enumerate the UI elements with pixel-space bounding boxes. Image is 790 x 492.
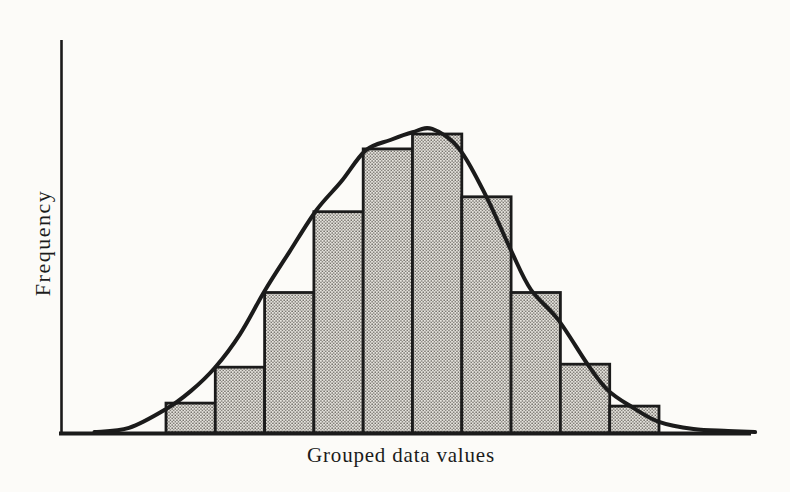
- histogram-bar-6: [413, 134, 462, 433]
- histogram-chart: [0, 0, 790, 492]
- y-axis-label: Frequency: [30, 190, 56, 296]
- histogram-bar-2: [215, 367, 264, 433]
- histogram-bar-3: [265, 293, 314, 434]
- scanned-statistics-figure: Frequency Grouped data values: [0, 0, 790, 492]
- histogram-bar-1: [166, 403, 215, 433]
- x-axis-label: Grouped data values: [307, 443, 495, 468]
- histogram-bar-4: [314, 212, 363, 433]
- histogram-bar-9: [560, 364, 609, 433]
- histogram-bar-5: [363, 149, 412, 433]
- histogram-bars: [166, 134, 659, 433]
